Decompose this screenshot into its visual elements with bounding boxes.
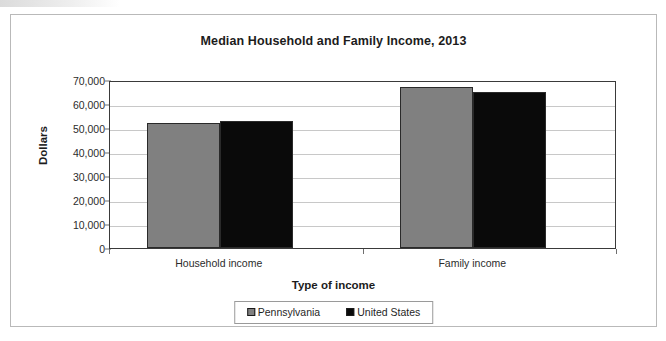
legend-label: United States xyxy=(357,306,420,318)
legend-item: United States xyxy=(346,306,420,318)
bar-pennsylvania-household-income xyxy=(147,123,220,248)
gray-square-swatch-icon xyxy=(247,308,255,316)
plot-wrapper: 010,00020,00030,00040,00050,00060,00070,… xyxy=(109,81,616,249)
plot-area xyxy=(109,81,616,249)
x-axis-tick-label: Family income xyxy=(438,257,506,269)
chart-legend: Pennsylvania United States xyxy=(234,301,434,324)
y-axis-tick-label: 50,000 xyxy=(73,123,105,135)
x-axis-tick xyxy=(109,249,110,254)
x-axis-title: Type of income xyxy=(11,279,656,291)
y-axis-tick-label: 70,000 xyxy=(73,75,105,87)
y-axis-tick-labels: 010,00020,00030,00040,00050,00060,00070,… xyxy=(47,81,105,249)
chart-title: Median Household and Family Income, 2013 xyxy=(11,34,656,48)
x-axis-tick xyxy=(616,249,617,254)
bar-united-states-household-income xyxy=(220,121,293,248)
bar-united-states-family-income xyxy=(473,92,546,248)
y-axis-tick-label: 30,000 xyxy=(73,171,105,183)
y-axis-tick-label: 20,000 xyxy=(73,195,105,207)
chart-figure: Median Household and Family Income, 2013… xyxy=(10,14,657,327)
bar-pennsylvania-family-income xyxy=(400,87,473,248)
black-square-swatch-icon xyxy=(346,308,354,316)
x-axis-tick xyxy=(363,249,364,254)
legend-item: Pennsylvania xyxy=(247,306,320,318)
y-axis-tick-label: 10,000 xyxy=(73,219,105,231)
scan-artifact xyxy=(0,0,120,7)
x-axis-tick-label: Household income xyxy=(175,257,262,269)
legend-label: Pennsylvania xyxy=(258,306,320,318)
y-axis-tick-label: 60,000 xyxy=(73,99,105,111)
y-axis-tick-label: 40,000 xyxy=(73,147,105,159)
